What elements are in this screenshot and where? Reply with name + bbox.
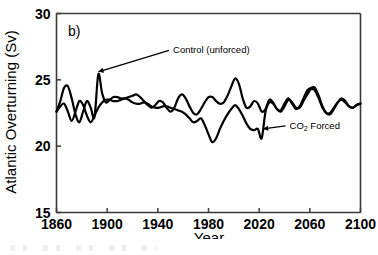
x-tick-label: 1900 [92,216,123,232]
atlantic-overturning-chart: 1860190019401980202020602100 15202530 Co… [0,0,378,255]
x-tick-label: 2100 [345,216,376,232]
x-tick-label: 2020 [244,216,275,232]
y-tick-label: 15 [35,205,51,221]
x-tick-label: 1940 [142,216,173,232]
y-axis-title: Atlantic Overturning (Sv) [2,30,19,193]
y-tick-label: 30 [35,6,51,22]
annotation-label-co2-forced: CO2 Forced [290,120,340,132]
y-tick-label: 20 [35,138,51,154]
y-tick-label: 25 [35,72,51,88]
scan-artifact-smudge [6,245,156,251]
annotation-label-control: Control (unforced) [173,44,250,55]
x-tick-label: 2060 [294,216,325,232]
panel-label: b) [68,23,80,39]
figure-panel-b: 1860190019401980202020602100 15202530 Co… [0,0,378,255]
